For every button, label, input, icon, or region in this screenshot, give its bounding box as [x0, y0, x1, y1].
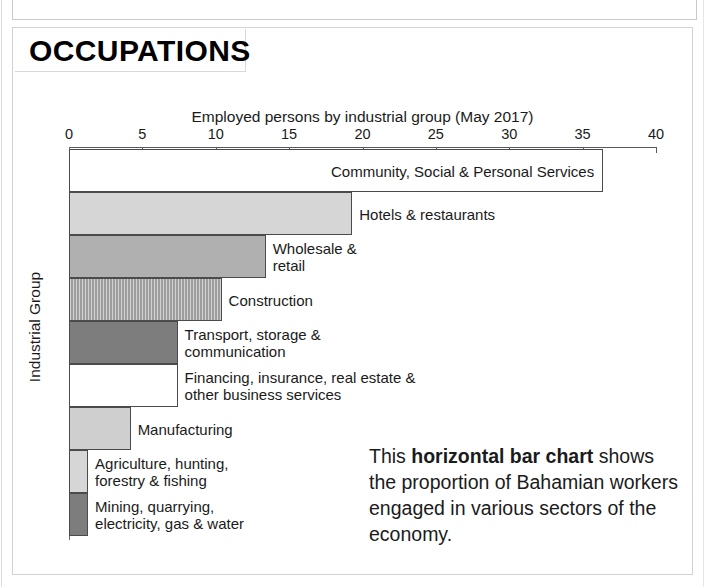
bar-row: Wholesale & retail	[69, 235, 656, 278]
caption-bold: horizontal bar chart	[411, 445, 593, 467]
bar-label: Construction	[229, 291, 313, 308]
page-root: the proportion of Bahamian workers engag…	[0, 0, 710, 587]
bar-label: Transport, storage & communication	[185, 326, 321, 360]
bar-label: Community, Social & Personal Services	[331, 162, 594, 179]
x-tick-label: 40	[636, 126, 676, 142]
page-left-rule	[1, 0, 2, 587]
bar	[69, 364, 178, 407]
caption-lead: This	[369, 445, 411, 467]
bar-label: Manufacturing	[138, 420, 233, 437]
bar	[69, 407, 131, 450]
bar-label: Hotels & restaurants	[359, 205, 495, 222]
bar: Community, Social & Personal Services	[69, 149, 603, 192]
x-tick-label: 15	[269, 126, 309, 142]
bar-label: Agriculture, hunting, forestry & fishing	[95, 455, 228, 489]
bar-row: Transport, storage & communication	[69, 321, 656, 364]
bar	[69, 450, 88, 493]
chart-caption: This horizontal bar chart shows the prop…	[369, 443, 679, 547]
bar	[69, 321, 178, 364]
bar	[69, 235, 266, 278]
bar-row: Community, Social & Personal Services	[69, 149, 656, 192]
x-tick-label: 20	[343, 126, 383, 142]
bar	[69, 278, 222, 321]
x-tick-label: 0	[49, 126, 89, 142]
bar-label: Wholesale & retail	[273, 240, 357, 274]
bar-label: Mining, quarrying, electricity, gas & wa…	[95, 498, 244, 532]
x-tick-label: 25	[416, 126, 456, 142]
bar-row: Hotels & restaurants	[69, 192, 656, 235]
bar-chart: Employed persons by industrial group (Ma…	[13, 28, 694, 576]
x-tick-label: 30	[489, 126, 529, 142]
x-tick-label: 35	[563, 126, 603, 142]
bar-row: Financing, insurance, real estate & othe…	[69, 364, 656, 407]
clipped-note-box-above: the proportion of Bahamian workers engag…	[12, 0, 697, 20]
y-axis-label: Industrial Group	[26, 247, 44, 407]
occupations-panel: OCCUPATIONS Employed persons by industri…	[12, 27, 693, 575]
x-tick-label: 10	[196, 126, 236, 142]
bar	[69, 493, 88, 536]
bar-row: Construction	[69, 278, 656, 321]
bar-label: Financing, insurance, real estate & othe…	[185, 369, 416, 403]
bar	[69, 192, 352, 235]
page-right-rule	[703, 0, 704, 587]
x-tick-label: 5	[122, 126, 162, 142]
x-tick	[656, 147, 657, 153]
chart-title: Employed persons by industrial group (Ma…	[69, 108, 656, 126]
